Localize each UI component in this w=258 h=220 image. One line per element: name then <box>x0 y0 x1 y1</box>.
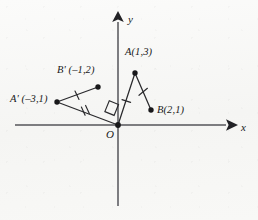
point-b <box>148 107 153 112</box>
tick-marks-ab <box>139 88 147 95</box>
point-label-a-prime: A' (–3,1) <box>10 94 48 105</box>
triangle-image <box>57 87 118 125</box>
axis-group <box>15 11 238 206</box>
coordinate-diagram: y x O A(1,3) B(2,1) B' (–1,2) A' (–3,1) <box>0 0 258 220</box>
y-axis-label: y <box>128 14 133 25</box>
segment-aprime-bprime <box>57 87 98 102</box>
segment-oa <box>118 73 135 125</box>
point-label-b: B(2,1) <box>157 105 184 116</box>
y-axis-arrowhead <box>112 11 124 22</box>
point-origin <box>115 122 121 128</box>
point-label-b-prime: B' (–1,2) <box>57 65 95 76</box>
triangle-aob <box>118 73 151 125</box>
diagram-canvas <box>0 0 258 220</box>
point-label-a: A(1,3) <box>125 47 152 58</box>
right-angle-marker-icon <box>105 101 119 116</box>
point-a-prime <box>54 99 59 104</box>
x-axis-label: x <box>241 122 246 133</box>
x-axis-arrowhead <box>226 119 238 131</box>
origin-label: O <box>106 129 114 140</box>
point-b-prime <box>95 84 100 89</box>
point-a <box>132 70 137 75</box>
